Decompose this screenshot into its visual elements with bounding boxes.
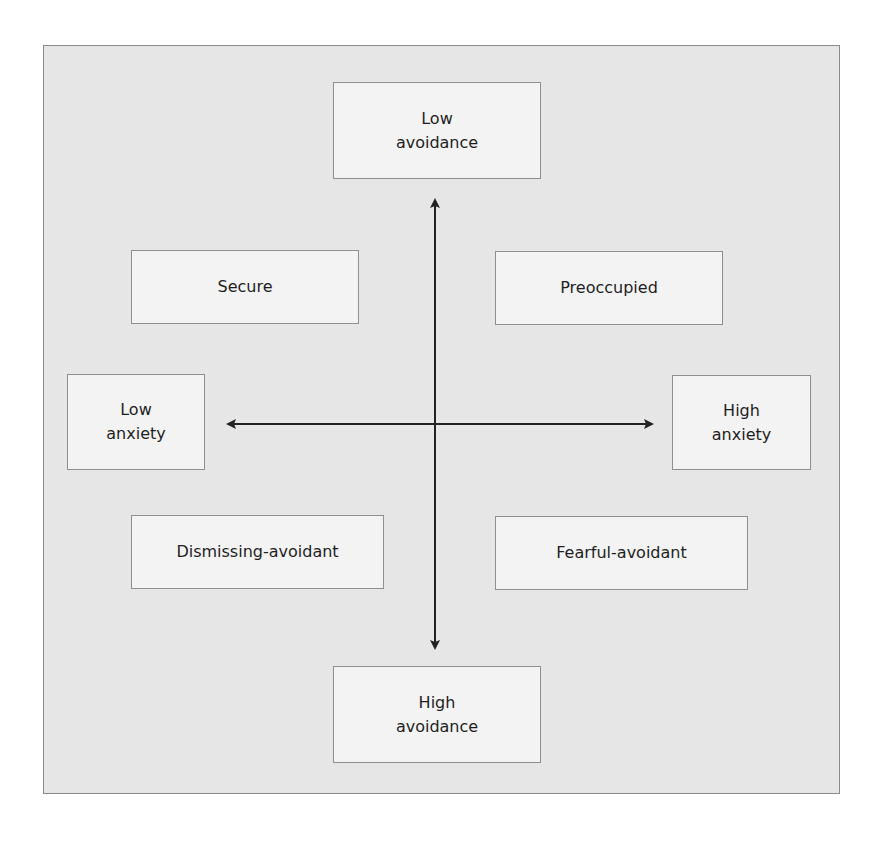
quadrant-fearful-avoidant: Fearful-avoidant [495,516,748,590]
quadrant-secure: Secure [131,250,359,324]
high-avoidance-label: High avoidance [333,666,541,763]
quadrant-dismissing-avoidant: Dismissing-avoidant [131,515,384,589]
low-anxiety-label: Low anxiety [67,374,205,470]
low-avoidance-label: Low avoidance [333,82,541,179]
high-anxiety-label: High anxiety [672,375,811,470]
quadrant-preoccupied: Preoccupied [495,251,723,325]
